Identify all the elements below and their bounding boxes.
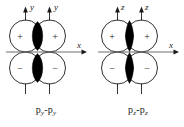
- sign-top-left: +: [109, 31, 115, 42]
- caption-sub-1: y: [41, 109, 44, 117]
- vertical-axis-label-left: y: [30, 3, 34, 12]
- axis-arrowhead-right: [139, 7, 144, 13]
- overlap-lobe-lower: [32, 54, 43, 83]
- sign-bottom-right: −: [52, 63, 58, 74]
- overlap-lobe-upper: [126, 21, 134, 52]
- x-axis-arrowhead: [174, 50, 180, 55]
- orbital-overlap-figure: + + − − y y x py-py: [0, 0, 184, 127]
- sign-top-left: +: [17, 31, 23, 42]
- overlap-lobe-upper: [32, 22, 43, 51]
- vertical-axis-label-right: z: [145, 3, 149, 12]
- caption-sub-2: y: [53, 109, 56, 117]
- axis-arrowhead-left: [115, 7, 120, 13]
- sign-bottom-left: −: [17, 63, 23, 74]
- diagram-panel-py-py: + + − − y y x py-py: [0, 0, 92, 127]
- vertical-axis-label-right: y: [54, 3, 58, 12]
- panel-caption-py-py: py-py: [0, 104, 92, 115]
- axis-arrowhead-left: [23, 7, 28, 13]
- py-py-drawing: + + − −: [0, 0, 92, 112]
- x-axis-arrowhead: [82, 50, 88, 55]
- axis-arrowhead-right: [47, 7, 52, 13]
- panel-caption-pz-pz: pz-pz: [92, 104, 184, 115]
- overlap-lobe-lower: [126, 53, 134, 84]
- sign-bottom-right: −: [144, 63, 150, 74]
- sign-top-right: +: [52, 31, 58, 42]
- horizontal-axis-label: x: [77, 41, 81, 50]
- vertical-axis-label-left: z: [121, 3, 125, 12]
- horizontal-axis-label: x: [169, 41, 173, 50]
- diagram-panel-pz-pz: + + − − z z x pz-pz: [92, 0, 184, 127]
- sign-bottom-left: −: [109, 63, 115, 74]
- caption-sub-2: z: [145, 109, 148, 117]
- sign-top-right: +: [144, 31, 150, 42]
- caption-sub-1: z: [133, 109, 136, 117]
- pz-pz-drawing: + + − −: [92, 0, 184, 112]
